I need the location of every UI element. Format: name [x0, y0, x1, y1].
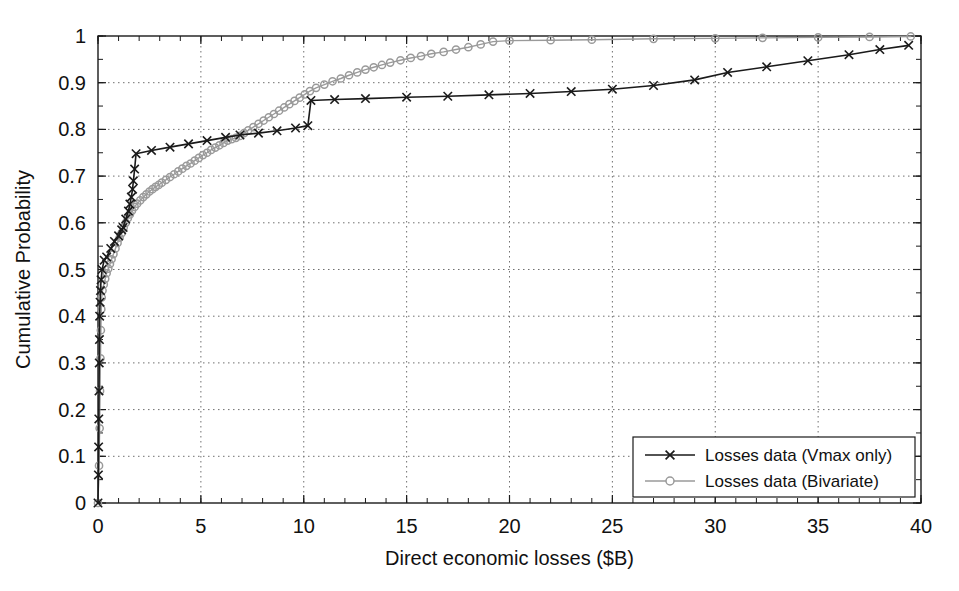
figure-container: 051015202530354000.10.20.30.40.50.60.70.… [0, 0, 959, 591]
x-tick-label: 25 [601, 515, 623, 537]
x-tick-label: 20 [498, 515, 520, 537]
y-tick-label: 0.9 [58, 72, 86, 94]
cdf-chart: 051015202530354000.10.20.30.40.50.60.70.… [0, 0, 959, 591]
y-tick-label: 0.7 [58, 165, 86, 187]
legend-label: Losses data (Bivariate) [705, 472, 879, 491]
x-tick-label: 10 [293, 515, 315, 537]
y-axis-title: Cumulative Probability [12, 170, 34, 369]
chart-legend[interactable]: Losses data (Vmax only)Losses data (Biva… [633, 437, 915, 497]
x-tick-label: 35 [807, 515, 829, 537]
x-tick-label: 30 [704, 515, 726, 537]
y-tick-label: 0.2 [58, 399, 86, 421]
x-tick-label: 15 [396, 515, 418, 537]
x-tick-label: 0 [92, 515, 103, 537]
y-tick-label: 0.4 [58, 305, 86, 327]
x-axis-title: Direct economic losses ($B) [385, 547, 634, 569]
y-tick-label: 0.6 [58, 212, 86, 234]
y-tick-label: 0.1 [58, 445, 86, 467]
x-tick-label: 5 [195, 515, 206, 537]
legend-marker-circle-icon [666, 477, 674, 485]
y-tick-label: 0.3 [58, 352, 86, 374]
x-tick-label: 40 [910, 515, 932, 537]
y-tick-label: 0.5 [58, 259, 86, 281]
legend-label: Losses data (Vmax only) [705, 446, 892, 465]
y-tick-label: 1 [75, 25, 86, 47]
y-tick-label: 0 [75, 492, 86, 514]
y-tick-label: 0.8 [58, 118, 86, 140]
